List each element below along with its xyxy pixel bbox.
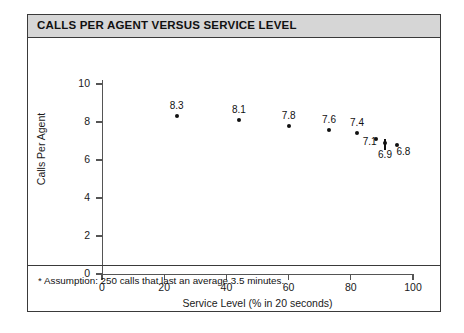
plot-area: Calls Per Agent Service Level (% in 20 s… [28,38,442,313]
y-axis-tick-label: 10 [36,77,90,89]
data-point-label: 6.8 [396,146,430,157]
data-point-marker[interactable] [175,114,179,118]
y-axis-tick-label: 4 [36,191,90,203]
footnote-divider [28,265,440,266]
x-axis-tick [288,274,289,280]
chart-title-bar: CALLS PER AGENT VERSUS SERVICE LEVEL [28,15,440,38]
chart-footnote: * Assumption: 250 calls that last an ave… [38,275,284,286]
data-point-marker[interactable] [237,118,241,122]
data-point-label: 8.3 [160,100,194,111]
data-point-label: 7.4 [340,117,374,128]
data-point-marker[interactable] [327,128,331,132]
y-axis-tick [96,83,102,84]
y-axis-tick-label: 6 [36,153,90,165]
data-point-marker[interactable] [355,131,359,135]
data-point-marker[interactable] [383,141,387,145]
y-axis-tick-label: 2 [36,229,90,241]
y-axis-tick-label: 8 [36,115,90,127]
x-axis-tick [412,274,413,280]
y-axis-line [102,80,103,275]
data-point-label: 8.1 [222,104,256,115]
chart-figure: CALLS PER AGENT VERSUS SERVICE LEVEL Cal… [27,14,441,312]
data-point-label: 7.1 [343,136,377,147]
data-point-marker[interactable] [287,124,291,128]
x-axis-tick-label: 80 [331,281,371,293]
x-axis-tick-label: 100 [393,281,433,293]
x-axis-label: Service Level (% in 20 seconds) [102,297,413,309]
y-axis-tick [96,159,102,160]
y-axis-tick [96,197,102,198]
y-axis-tick [96,121,102,122]
x-axis-tick [350,274,351,280]
y-axis-tick [96,235,102,236]
page-title: CALLS PER AGENT VERSUS SERVICE LEVEL [37,19,297,31]
data-point-label: 7.8 [272,110,306,121]
